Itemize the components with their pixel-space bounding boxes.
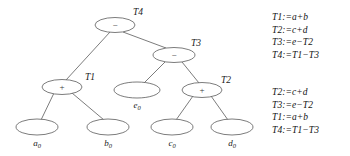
tree-edge-T2-d0 [211,96,228,120]
tree-node-T2[interactable]: +T2 [182,75,231,98]
tree-node-T1[interactable]: +T1 [42,72,95,95]
leaf-label-c0: c0 [168,138,176,149]
node-ellipse-e0 [114,82,160,98]
code-line: T3:=e−T2 [272,36,319,49]
leaf-label-b0: b0 [104,138,113,149]
node-ellipse-a0 [16,119,58,135]
node-ellipse-c0 [151,119,193,135]
tree-canvas: −T4−T3+T1+T2e0a0b0c0d0 [0,0,270,156]
code-line: T2:=c+d [272,24,319,37]
tree-node-e0[interactable]: e0 [114,82,160,111]
tree-node-d0[interactable]: d0 [211,119,253,149]
tree-node-a0[interactable]: a0 [16,119,58,149]
code-line: T3:=e−T2 [272,99,319,112]
second-code-listing: T2:=c+dT3:=e−T2T1:=a+bT4:=T1−T3 [272,86,319,136]
first-code-listing: T1:=a+bT2:=c+dT3:=e−T2T4:=T1−T3 [272,11,319,61]
tree-node-T3[interactable]: −T3 [153,38,201,63]
node-operator-T4: − [112,20,117,30]
tree-edge-T1-a0 [41,93,54,120]
node-tag-T3: T3 [191,38,201,48]
code-line: T1:=a+b [272,111,319,124]
code-line: T4:=T1−T3 [272,124,319,137]
tree-edge-T4-T3 [123,32,166,48]
node-layer: −T4−T3+T1+T2e0a0b0c0d0 [16,7,253,149]
node-tag-T2: T2 [221,75,231,85]
code-line: T4:=T1−T3 [272,49,319,62]
code-line: T2:=c+d [272,86,319,99]
leaf-label-a0: a0 [33,138,42,149]
leaf-label-d0: d0 [228,138,237,149]
expression-tree-figure: −T4−T3+T1+T2e0a0b0c0d0 T1:=a+bT2:=c+dT3:… [0,0,350,156]
tree-node-c0[interactable]: c0 [151,119,193,149]
node-ellipse-b0 [87,119,129,135]
node-operator-T3: − [171,50,176,60]
node-tag-T4: T4 [133,7,143,17]
node-operator-T1: + [59,82,64,92]
tree-edge-T2-c0 [176,96,193,120]
tree-node-T4[interactable]: −T4 [95,7,143,33]
tree-edge-T3-e0 [144,62,165,83]
code-line: T1:=a+b [272,11,319,24]
tree-edge-T3-T2 [182,62,199,83]
leaf-label-e0: e0 [133,100,141,111]
tree-edge-T1-b0 [72,93,104,120]
node-ellipse-d0 [211,119,253,135]
tree-node-b0[interactable]: b0 [87,119,129,149]
node-tag-T1: T1 [85,72,95,82]
node-operator-T2: + [199,85,204,95]
